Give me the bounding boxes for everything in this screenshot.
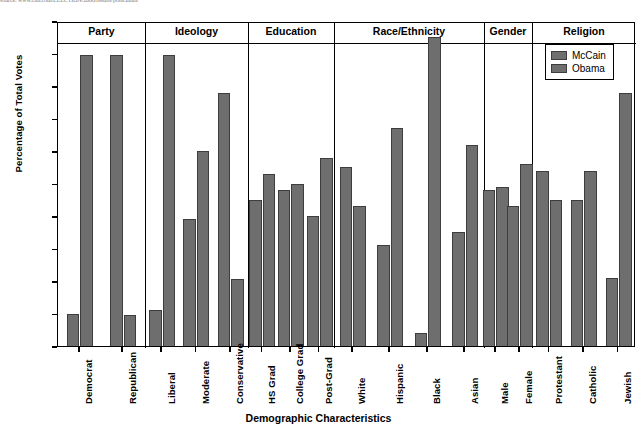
x-tick-mark-jewish — [617, 347, 619, 352]
group-header-race-ethnicity: Race/Ethnicity — [334, 25, 484, 37]
group-header-rule — [484, 43, 532, 44]
x-tick-mark-college-grad — [289, 347, 291, 352]
x-axis-label-catholic: Catholic — [587, 366, 598, 404]
x-axis-label-republican: Republican — [127, 352, 138, 404]
group-header-party: Party — [58, 25, 145, 37]
bar-republican-obama — [124, 315, 137, 346]
bar-hs-grad-obama — [263, 174, 276, 346]
x-axis-label-black: Black — [431, 378, 442, 404]
bar-conservative-obama — [231, 279, 244, 346]
group-divider — [334, 23, 335, 348]
x-tick-mark-white — [351, 347, 353, 352]
legend-label-mccain: McCain — [572, 51, 606, 61]
x-tick-mark-female — [518, 347, 520, 352]
bar-black-mccain — [415, 333, 428, 346]
bar-jewish-obama — [619, 93, 632, 347]
bar-female-obama — [520, 164, 533, 346]
x-tick-mark-hispanic — [388, 347, 390, 352]
bar-hispanic-mccain — [377, 245, 390, 346]
group-header-rule — [334, 43, 484, 44]
x-axis-label-protestant: Protestant — [553, 356, 564, 404]
source-line: source: www.cnn.com/ELECTION/2008/result… — [0, 0, 240, 5]
x-tick-mark-catholic — [582, 347, 584, 352]
bar-liberal-obama — [163, 55, 176, 346]
bar-moderate-obama — [197, 151, 210, 346]
x-axis-label-post-grad: Post-Grad — [323, 357, 334, 404]
group-header-religion: Religion — [532, 25, 636, 37]
x-tick-mark-moderate — [195, 347, 197, 352]
bar-male-mccain — [483, 190, 496, 346]
x-axis-title: Demographic Characteristics — [0, 412, 637, 424]
x-tick-mark-democrat — [78, 347, 80, 352]
bar-protestant-mccain — [536, 171, 549, 347]
x-axis-label-hispanic: Hispanic — [394, 364, 405, 404]
x-axis-label-male: Male — [499, 382, 510, 404]
x-tick-mark-post-grad — [318, 347, 320, 352]
bar-white-obama — [353, 206, 366, 346]
x-axis-label-asian: Asian — [469, 378, 480, 404]
group-header-rule — [145, 43, 248, 44]
legend-item-mccain[interactable]: McCain — [551, 49, 606, 62]
bar-jewish-mccain — [606, 278, 619, 346]
bar-college-grad-mccain — [278, 190, 291, 346]
x-tick-mark-liberal — [160, 347, 162, 352]
bar-post-grad-mccain — [307, 216, 320, 346]
x-axis-label-conservative: Conservative — [234, 343, 245, 404]
x-axis-label-moderate: Moderate — [200, 361, 211, 404]
bar-black-obama — [428, 37, 441, 346]
bar-asian-mccain — [452, 232, 465, 346]
bar-liberal-mccain — [149, 310, 162, 346]
group-divider — [145, 23, 146, 348]
x-axis-label-hs-grad: HS Grad — [266, 365, 277, 404]
x-tick-mark-black — [426, 347, 428, 352]
group-header-gender: Gender — [484, 25, 532, 37]
x-tick-mark-asian — [463, 347, 465, 352]
legend-label-obama: Obama — [572, 64, 605, 74]
bar-hs-grad-mccain — [249, 200, 262, 346]
bar-college-grad-obama — [291, 184, 304, 347]
bar-catholic-mccain — [571, 200, 584, 346]
x-tick-mark-protestant — [548, 347, 550, 352]
legend-swatch-obama — [551, 64, 567, 73]
bar-democrat-obama — [80, 55, 93, 346]
bar-moderate-mccain — [183, 219, 196, 346]
x-tick-mark-male — [494, 347, 496, 352]
y-axis-title: Percentage of Total Votes — [13, 34, 24, 194]
group-header-education: Education — [248, 25, 334, 37]
bar-catholic-obama — [584, 171, 597, 347]
legend-item-obama[interactable]: Obama — [551, 62, 606, 75]
legend-swatch-mccain — [551, 51, 567, 60]
x-axis-label-female: Female — [523, 371, 534, 404]
group-header-ideology: Ideology — [145, 25, 248, 37]
bar-white-mccain — [340, 167, 353, 346]
bar-protestant-obama — [550, 200, 563, 346]
chart-legend: McCain Obama — [545, 44, 614, 80]
x-axis-label-jewish: Jewish — [622, 372, 633, 404]
x-axis-label-liberal: Liberal — [166, 372, 177, 404]
bar-hispanic-obama — [391, 128, 404, 346]
x-axis-label-white: White — [356, 378, 367, 404]
group-header-rule — [58, 43, 145, 44]
x-tick-mark-conservative — [229, 347, 231, 352]
bar-female-mccain — [507, 206, 520, 346]
x-tick-mark-republican — [121, 347, 123, 352]
bar-asian-obama — [466, 145, 479, 347]
x-axis-label-democrat: Democrat — [83, 359, 94, 404]
bar-conservative-mccain — [218, 93, 231, 347]
x-tick-mark-hs-grad — [261, 347, 263, 352]
bar-post-grad-obama — [320, 158, 333, 347]
bar-republican-mccain — [110, 55, 123, 346]
bar-democrat-mccain — [67, 314, 80, 347]
group-header-rule — [248, 43, 334, 44]
x-axis-label-college-grad: College Grad — [294, 344, 305, 404]
